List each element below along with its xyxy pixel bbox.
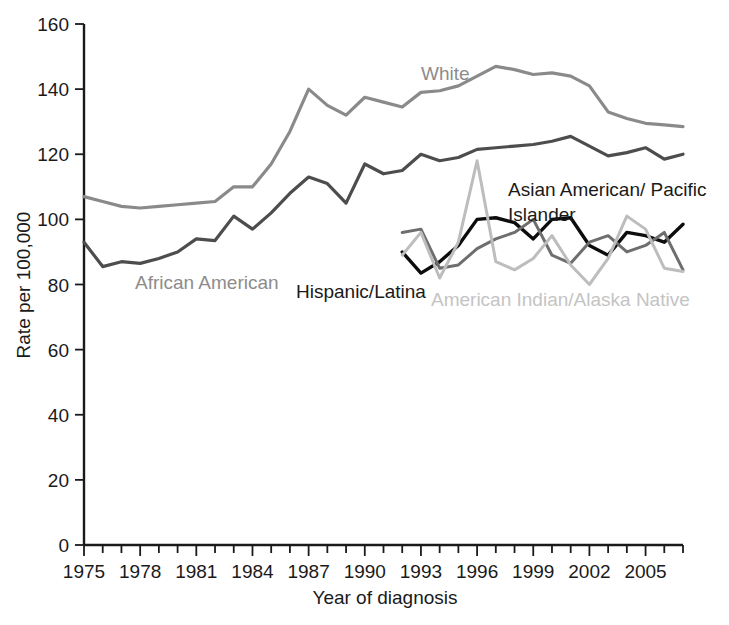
x-tick-label: 1984 <box>231 561 274 582</box>
y-tick-label: 100 <box>37 209 69 230</box>
y-tick-label: 0 <box>58 535 69 556</box>
y-tick-label: 20 <box>48 470 69 491</box>
x-tick-label: 1987 <box>287 561 329 582</box>
rate-per-100000-line-chart: 020406080100120140160 197519781981198419… <box>0 0 729 625</box>
y-axis-ticks <box>75 24 84 545</box>
y-tick-label: 120 <box>37 144 69 165</box>
y-axis: 020406080100120140160 <box>37 14 84 556</box>
x-axis-tick-labels: 1975197819811984198719901993199619992002… <box>63 561 667 582</box>
series-label-african-american: African American <box>135 272 279 293</box>
x-tick-label: 1975 <box>63 561 105 582</box>
x-tick-label: 1978 <box>119 561 161 582</box>
x-tick-label: 2005 <box>624 561 666 582</box>
x-tick-label: 1993 <box>400 561 442 582</box>
y-tick-label: 60 <box>48 340 69 361</box>
series-label-american-indian-alaska-native: American Indian/Alaska Native <box>431 289 690 310</box>
series-label-asian-american-pacific-islander-line1: Asian American/ Pacific <box>508 179 707 200</box>
x-axis: 1975197819811984198719901993199619992002… <box>63 545 683 582</box>
chart-container: 020406080100120140160 197519781981198419… <box>0 0 729 625</box>
series-label-asian-american-pacific-islander-line2: Islander <box>508 204 576 225</box>
x-tick-label: 1999 <box>512 561 554 582</box>
y-tick-label: 140 <box>37 79 69 100</box>
series-label-hispanic-latina: Hispanic/Latina <box>296 281 426 302</box>
x-axis-title: Year of diagnosis <box>312 587 457 608</box>
y-tick-label: 160 <box>37 14 69 35</box>
y-tick-label: 80 <box>48 275 69 296</box>
x-tick-label: 2002 <box>568 561 610 582</box>
x-tick-label: 1981 <box>175 561 217 582</box>
x-tick-label: 1990 <box>344 561 386 582</box>
x-tick-label: 1996 <box>456 561 498 582</box>
y-axis-tick-labels: 020406080100120140160 <box>37 14 69 556</box>
y-tick-label: 40 <box>48 405 69 426</box>
series-label-white: White <box>421 63 470 84</box>
x-axis-ticks <box>84 545 683 556</box>
y-axis-title: Rate per 100,000 <box>13 212 34 359</box>
data-series-group <box>84 66 683 284</box>
